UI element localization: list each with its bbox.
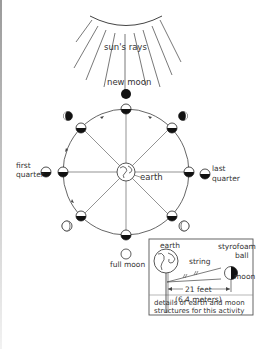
full-moon-view-icon [121,249,131,259]
styrofoam-label-1: styrofoam [218,242,256,251]
earth-label: earth [140,172,163,182]
orbit-moon-waxing-crescent [76,123,86,133]
orbit-moon-waning-gibbous [167,211,177,221]
new-moon-label: new moon [107,77,151,87]
orbit-moon-full [121,230,131,240]
new-moon-view-icon [121,89,131,99]
waxing-gibbous-view-icon [62,221,72,231]
sun-arc [90,16,162,26]
waning-crescent-view-icon [179,112,188,121]
suns-rays-label: sun's rays [104,42,147,52]
last-quarter-label-2: quarter [212,174,241,183]
last-quarter-label-1: last [212,164,226,173]
first-quarter-label-2: quarter [16,170,45,179]
inset-string-label: string [189,257,211,266]
orbit-moon-last-quarter [184,167,194,177]
waxing-crescent-view-icon [64,112,73,121]
full-moon-label: full moon [110,260,145,269]
waning-gibbous-view-icon [179,221,189,231]
orbit-moon-new [121,104,131,114]
inset-caption-line-2: structures for this activity [154,307,244,315]
moon-phases-diagram: sun's rays new moon earth [0,0,267,349]
orbit-moon-first-quarter [58,167,68,177]
orbit-moon-waxing-gibbous [76,211,86,221]
distance-feet-label: 21 feet [185,285,212,294]
inset-caption-line-1: details of earth and moon [154,299,245,307]
activity-detail-inset: earth string styrofoam ball moon 21 feet… [149,239,256,315]
styrofoam-label-2: ball [235,251,249,260]
inset-globe-icon [154,249,178,273]
first-quarter-label-1: first [16,161,31,170]
inset-moon-label: moon [234,272,255,281]
orbit-moon-waning-crescent [167,123,177,133]
last-quarter-view-icon [200,169,210,179]
earth-icon [117,163,135,181]
inset-earth-label: earth [160,241,180,250]
